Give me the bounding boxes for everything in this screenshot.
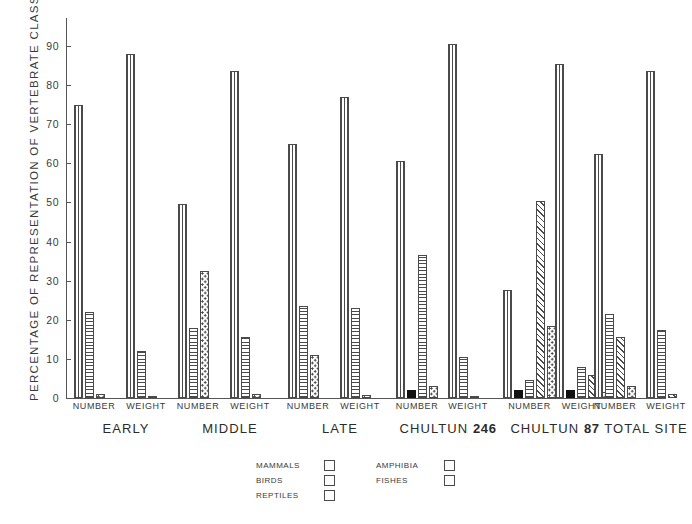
- legend-row: BIRDSFISHES: [256, 473, 496, 488]
- legend-row: MAMMALSAMPHIBIA: [256, 458, 496, 473]
- bar-group: NUMBERWEIGHTLATE: [288, 17, 384, 398]
- bar-subgroup: NUMBER: [503, 17, 556, 398]
- bar: [418, 255, 427, 398]
- y-tick-label: 30: [46, 275, 59, 287]
- y-tick: [66, 124, 71, 125]
- bar-group: NUMBERWEIGHTCHULTUN 87: [503, 17, 599, 398]
- y-tick: [66, 359, 71, 360]
- bar: [448, 44, 457, 398]
- subgroup-label: NUMBER: [177, 401, 220, 411]
- bar: [627, 386, 636, 398]
- bar-subgroup: NUMBER: [288, 17, 328, 398]
- y-axis-title: PERCENTAGE OF REPRESENTATION OF VERTEBRA…: [28, 1, 40, 401]
- legend: MAMMALSAMPHIBIABIRDSFISHESREPTILES: [256, 458, 496, 503]
- legend-item-birds: BIRDS: [256, 475, 376, 486]
- legend-swatch-mammals-icon: [324, 460, 335, 471]
- bar: [299, 306, 308, 398]
- bar-group: NUMBERWEIGHTTOTAL SITE: [594, 17, 690, 398]
- bar: [594, 154, 603, 398]
- bar: [577, 367, 586, 398]
- bar: [148, 396, 157, 398]
- bar: [126, 54, 135, 398]
- bar: [668, 394, 677, 398]
- bar: [200, 271, 209, 398]
- chart-root: PERCENTAGE OF REPRESENTATION OF VERTEBRA…: [0, 0, 692, 524]
- legend-label: BIRDS: [256, 476, 324, 485]
- group-label: EARLY: [102, 421, 149, 436]
- bar: [340, 97, 349, 398]
- bar: [137, 351, 146, 398]
- y-tick-label: 80: [46, 79, 59, 91]
- y-tick-label: 90: [46, 40, 59, 52]
- bar: [396, 161, 405, 398]
- y-tick-label: 50: [46, 196, 59, 208]
- bar: [616, 337, 625, 398]
- x-axis-line: [66, 398, 666, 399]
- bar: [96, 394, 105, 398]
- y-tick: [66, 163, 71, 164]
- legend-row: REPTILES: [256, 488, 496, 503]
- subgroup-label: WEIGHT: [230, 401, 270, 411]
- bar-group: NUMBERWEIGHTEARLY: [74, 17, 170, 398]
- bar-subgroup: NUMBER: [178, 17, 218, 398]
- subgroup-label: NUMBER: [396, 401, 439, 411]
- bar: [657, 330, 666, 398]
- legend-swatch-fishes-icon: [444, 475, 455, 486]
- legend-label: FISHES: [376, 476, 444, 485]
- subgroup-label: NUMBER: [594, 401, 637, 411]
- group-label: TOTAL SITE: [604, 421, 688, 436]
- y-tick-label: 60: [46, 157, 59, 169]
- bar: [288, 144, 297, 398]
- subgroup-label: NUMBER: [287, 401, 330, 411]
- group-label: CHULTUN 246: [399, 421, 496, 436]
- bar-subgroup: WEIGHT: [230, 17, 270, 398]
- subgroup-label: WEIGHT: [340, 401, 380, 411]
- bar: [85, 312, 94, 398]
- bar: [646, 71, 655, 398]
- bar: [407, 390, 416, 398]
- bar: [310, 355, 319, 398]
- bar: [241, 337, 250, 398]
- bar-subgroup: NUMBER: [74, 17, 114, 398]
- bar: [429, 386, 438, 398]
- y-tick: [66, 85, 71, 86]
- bar: [514, 390, 523, 398]
- subgroup-label: NUMBER: [73, 401, 116, 411]
- legend-item-mammals: MAMMALS: [256, 460, 376, 471]
- bar: [189, 328, 198, 398]
- bar-subgroup: WEIGHT: [340, 17, 380, 398]
- legend-label: REPTILES: [256, 491, 324, 500]
- bar: [459, 357, 468, 398]
- y-tick: [66, 320, 71, 321]
- legend-label: AMPHIBIA: [376, 461, 444, 470]
- legend-label: MAMMALS: [256, 461, 324, 470]
- bar-group: NUMBERWEIGHTMIDDLE: [178, 17, 274, 398]
- bar-subgroup: WEIGHT: [646, 17, 686, 398]
- subgroup-label: WEIGHT: [448, 401, 488, 411]
- y-tick: [66, 46, 71, 47]
- y-tick: [66, 202, 71, 203]
- bar-subgroup: NUMBER: [594, 17, 636, 398]
- y-tick-label: 10: [46, 353, 59, 365]
- bar: [252, 394, 261, 398]
- subgroup-label: WEIGHT: [646, 401, 686, 411]
- bar: [566, 390, 575, 398]
- legend-item-fishes: FISHES: [376, 475, 496, 486]
- legend-item-amphibia: AMPHIBIA: [376, 460, 496, 471]
- group-label: MIDDLE: [202, 421, 258, 436]
- y-axis-line: [66, 18, 67, 399]
- bar-subgroup: WEIGHT: [126, 17, 166, 398]
- group-label: CHULTUN 87: [510, 421, 599, 436]
- subgroup-label: WEIGHT: [126, 401, 166, 411]
- bar: [74, 105, 83, 398]
- bar: [178, 204, 187, 398]
- bar: [503, 290, 512, 398]
- bar: [555, 64, 564, 398]
- legend-swatch-birds-icon: [324, 475, 335, 486]
- y-tick-label: 70: [46, 118, 59, 130]
- bar: [230, 71, 239, 398]
- bar-group: NUMBERWEIGHTCHULTUN 246: [396, 17, 492, 398]
- plot-area: 0102030405060708090 NUMBERWEIGHTEARLYNUM…: [66, 18, 666, 399]
- subgroup-label: NUMBER: [508, 401, 551, 411]
- bar-subgroup: WEIGHT: [448, 17, 488, 398]
